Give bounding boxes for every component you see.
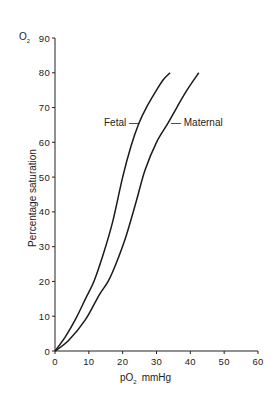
y-tick-label: 50 — [39, 172, 50, 183]
x-tick-label: 50 — [219, 356, 230, 367]
y-tick-label: 40 — [39, 206, 50, 217]
y-tick-label: 10 — [39, 311, 50, 322]
fetal-label: Fetal — — [104, 117, 139, 128]
y-axis: 0102030405060708090 — [39, 33, 55, 357]
x-tick-label: 30 — [151, 356, 162, 367]
x-tick-label: 40 — [185, 356, 196, 367]
y-axis-title: Percentage saturation — [27, 149, 38, 247]
y-tick-label: 60 — [39, 137, 50, 148]
fetal-curve — [55, 73, 170, 351]
x-tick-label: 10 — [83, 356, 94, 367]
y-tick-label: 90 — [39, 33, 50, 44]
maternal-label: — Maternal — [171, 117, 223, 128]
x-tick-label: 0 — [52, 356, 58, 367]
y-tick-label: 30 — [39, 241, 50, 252]
y-tick-label: 0 — [44, 346, 50, 357]
x-axis: 0102030405060 — [52, 351, 263, 367]
curves — [55, 73, 199, 351]
oxygen-dissociation-chart: 0102030405060708090 0102030405060 O2 Per… — [0, 0, 278, 394]
x-tick-label: 20 — [117, 356, 128, 367]
y-tick-label: 20 — [39, 276, 50, 287]
corner-o2-label: O2 — [19, 31, 31, 44]
maternal-curve — [55, 73, 199, 351]
y-tick-label: 80 — [39, 67, 50, 78]
x-tick-label: 60 — [252, 356, 263, 367]
x-axis-title: pO2mmHg — [120, 372, 171, 385]
y-tick-label: 70 — [39, 102, 50, 113]
